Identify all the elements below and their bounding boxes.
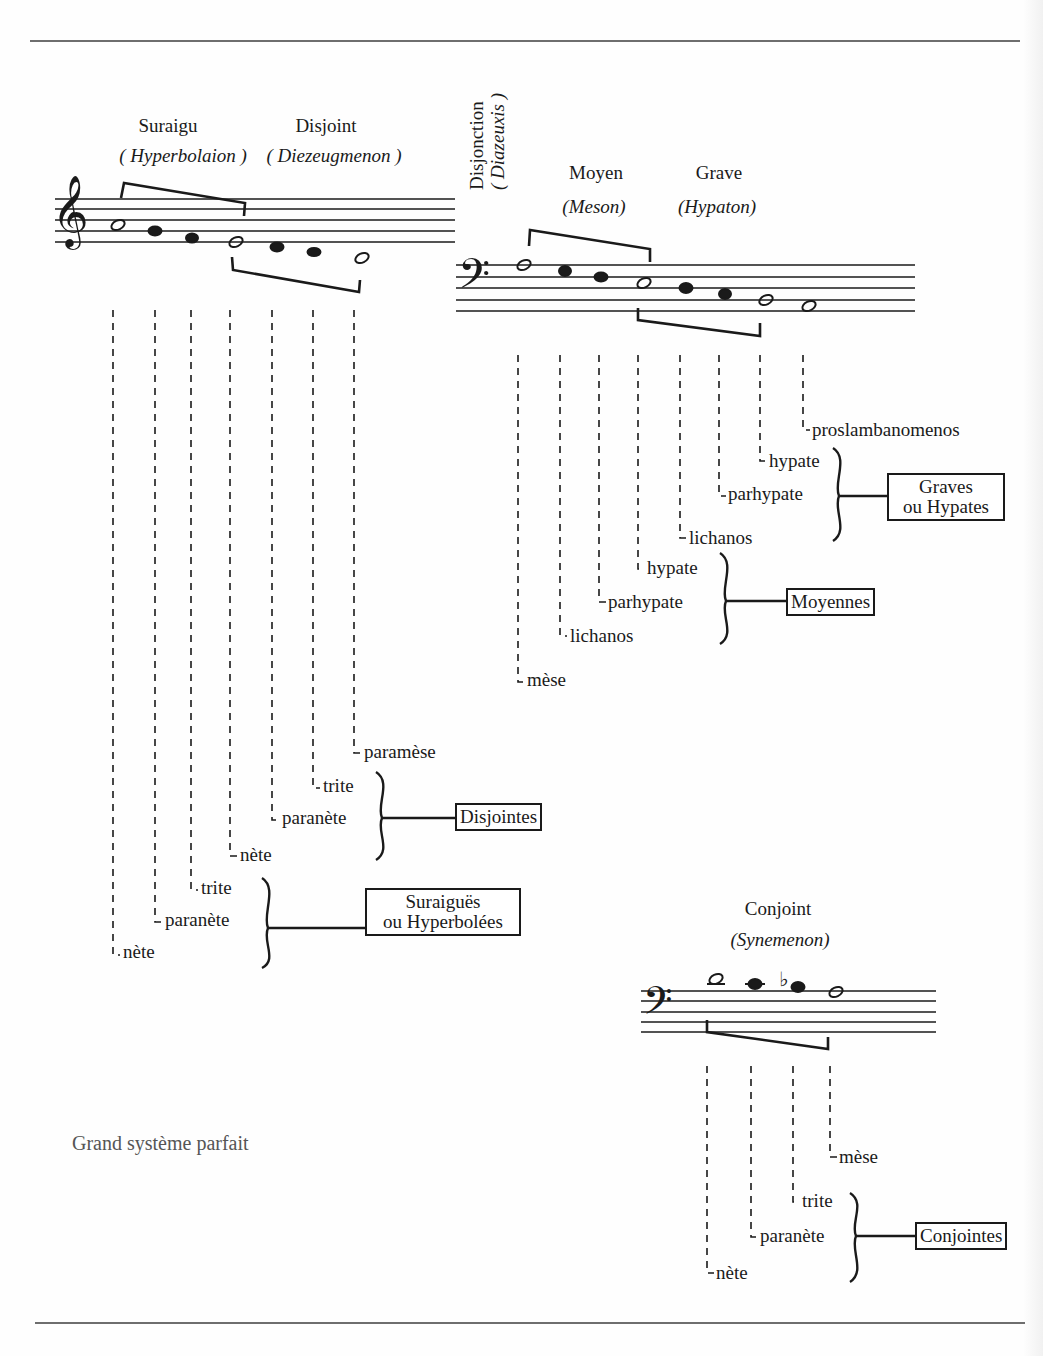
note-label: paranète: [760, 1226, 824, 1245]
bass-clef-icon: 𝄢: [458, 254, 490, 304]
bracket-moyen: [529, 230, 650, 262]
note-label: hypate: [769, 451, 820, 470]
heading-disjoint-greek: ( Diezeugmenon ): [266, 146, 401, 165]
bracket-disjoint: [232, 257, 360, 292]
disjonction-label: Disjonction: [467, 93, 488, 190]
note-label: parhypate: [608, 592, 683, 611]
group-box-suraigues: Suraiguës ou Hyperbolées: [365, 888, 521, 936]
heading-grave: Grave: [696, 163, 742, 182]
heading-conjoint: Conjoint: [745, 899, 812, 918]
note-label: paranète: [165, 910, 229, 929]
conjoint-notes: [707, 972, 844, 999]
brace-moyennes: [720, 553, 727, 644]
heading-suraigu: Suraigu: [138, 116, 197, 135]
brace-graves: [833, 448, 840, 541]
disjonction-greek: ( Diazeuxis ): [488, 93, 509, 190]
heading-conjoint-greek: (Synemenon): [730, 930, 829, 949]
heading-moyen: Moyen: [569, 163, 623, 182]
group-box-graves: Graves ou Hypates: [887, 473, 1005, 521]
note-label: parhypate: [728, 484, 803, 503]
group-box-line: Conjointes: [920, 1226, 1002, 1246]
brace-conjointes: [850, 1193, 857, 1282]
group-box-line: Disjointes: [460, 807, 537, 827]
note-label: trite: [323, 776, 354, 795]
bass-leaders: [518, 355, 810, 682]
bass-clef-conjoint-icon: 𝄢: [643, 982, 673, 1028]
treble-leaders: [113, 310, 361, 955]
note-label: paramèse: [364, 742, 436, 761]
treble-clef-icon: 𝄞: [52, 180, 89, 242]
note-label: nète: [716, 1263, 748, 1282]
note-label: trite: [802, 1191, 833, 1210]
brace-disjointes: [376, 772, 383, 860]
note-label: nète: [123, 942, 155, 961]
note-label: trite: [201, 878, 232, 897]
note-label: nète: [240, 845, 272, 864]
group-box-conjointes: Conjointes: [915, 1222, 1007, 1250]
note-label: paranète: [282, 808, 346, 827]
note-label: proslambanomenos: [812, 420, 960, 439]
heading-suraigu-greek: ( Hyperbolaion ): [119, 146, 247, 165]
heading-moyen-greek: (Meson): [562, 197, 625, 216]
group-box-line: ou Hypates: [892, 497, 1000, 517]
note-label: hypate: [647, 558, 698, 577]
group-box-moyennes: Moyennes: [786, 588, 875, 616]
note-label: mèse: [839, 1147, 878, 1166]
group-box-line: Graves: [892, 477, 1000, 497]
heading-grave-greek: (Hypaton): [678, 197, 756, 216]
note-label: lichanos: [689, 528, 752, 547]
group-box-line: ou Hyperbolées: [370, 912, 516, 932]
note-label: mèse: [527, 670, 566, 689]
group-box-disjointes: Disjointes: [455, 803, 542, 831]
heading-disjoint: Disjoint: [295, 116, 356, 135]
flat-icon: ♭: [779, 969, 788, 989]
bracket-conjoint: [707, 1020, 828, 1049]
bracket-grave: [638, 308, 760, 336]
bass-notes: [516, 258, 817, 313]
figure-caption: Grand système parfait: [72, 1133, 249, 1153]
conjoint-staff: [641, 991, 936, 1032]
note-label: lichanos: [570, 626, 633, 645]
group-box-line: Suraiguës: [370, 892, 516, 912]
group-box-line: Moyennes: [791, 592, 870, 612]
heading-disjonction: Disjonction ( Diazeuxis ): [467, 93, 509, 190]
brace-suraigues: [262, 878, 269, 968]
